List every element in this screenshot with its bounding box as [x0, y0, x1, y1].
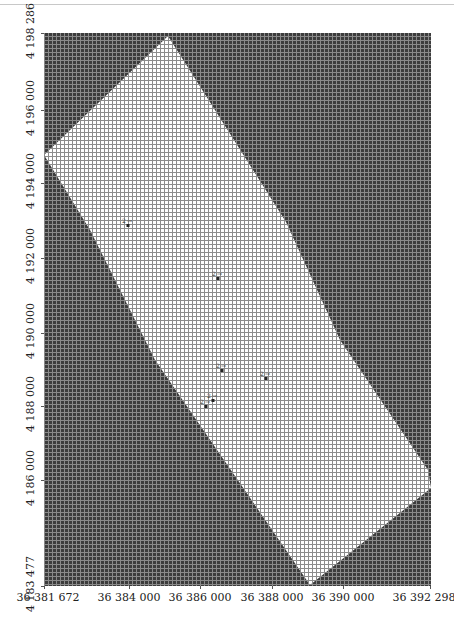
x-tick — [343, 586, 344, 589]
x-tick — [200, 586, 201, 589]
x-tick-label: 36 381 672 — [17, 592, 80, 604]
y-tick-label: 4 196 000 — [25, 80, 37, 136]
y-tick-label: 4 198 286 — [25, 3, 37, 59]
map-figure: 2 →2 →2 →2 →2 →2 → 4 198 2864 196 0004 1… — [0, 0, 454, 631]
y-tick-label: 4 190 000 — [25, 303, 37, 359]
svg-text:2 →: 2 → — [260, 370, 270, 377]
x-tick-label: 36 388 000 — [241, 592, 304, 604]
x-tick-label: 36 386 000 — [169, 592, 232, 604]
x-tick — [44, 586, 45, 589]
y-tick — [41, 333, 44, 334]
x-tick-label: 36 384 000 — [98, 592, 161, 604]
y-tick-label: 4 188 000 — [25, 376, 37, 432]
svg-text:2 →: 2 → — [216, 362, 226, 369]
y-tick — [41, 480, 44, 481]
map-plot-area: 2 →2 →2 →2 →2 →2 → — [44, 33, 431, 586]
y-tick — [41, 406, 44, 407]
svg-text:2 →: 2 → — [200, 398, 210, 405]
top-rule — [0, 4, 454, 5]
x-tick — [129, 586, 130, 589]
y-tick — [41, 258, 44, 259]
y-tick — [41, 33, 44, 34]
y-tick — [41, 110, 44, 111]
y-tick-label: 4 194 000 — [25, 153, 37, 209]
y-tick — [41, 183, 44, 184]
x-tick-label: 36 390 000 — [312, 592, 375, 604]
svg-text:2 →: 2 → — [212, 270, 222, 277]
x-tick — [430, 586, 431, 589]
svg-text:2 →: 2 → — [122, 217, 132, 224]
x-tick — [272, 586, 273, 589]
y-tick-label: 4 192 000 — [25, 228, 37, 284]
x-tick-label: 36 392 298 — [393, 592, 454, 604]
y-tick-label: 4 186 000 — [25, 450, 37, 506]
